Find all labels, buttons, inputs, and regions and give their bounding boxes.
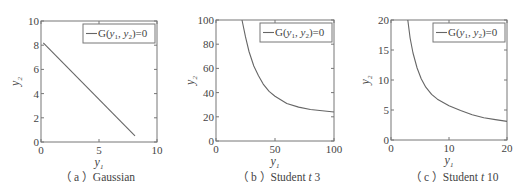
y-tick-label: 60 <box>203 62 215 74</box>
legend: G(y1, y2)=0 <box>433 23 505 42</box>
caption-c-suffix: 10 <box>484 171 498 183</box>
caption-c-name: Student <box>443 171 481 183</box>
y-tick-label: 4 <box>34 88 40 100</box>
legend: G(y1, y2)=0 <box>260 23 332 42</box>
y-tick-label: 5 <box>384 104 390 116</box>
caption-c-label: （ c ） <box>410 171 443 183</box>
y-tick-label: 0 <box>209 135 215 147</box>
legend-label: G(y1, y2)=0 <box>275 26 325 40</box>
y-tick-label: 10 <box>28 15 40 27</box>
y-tick-label: 15 <box>378 44 390 56</box>
legend: G(y1, y2)=0 <box>83 24 155 43</box>
y-tick-label: 20 <box>378 14 390 26</box>
chart-a: 05100246810y1y2G(y1, y2)=0 <box>0 0 175 190</box>
y-axis-label: y2 <box>8 77 24 87</box>
y-axis-label: y2 <box>183 76 199 86</box>
y-tick-label: 10 <box>378 74 390 86</box>
series-line <box>43 43 135 136</box>
chart-b: 050100020406080100y1y2G(y1, y2)=0 <box>175 0 350 190</box>
caption-b-label: （ b ） <box>237 171 271 183</box>
chart-c: 0102005101520y1y2G(y1, y2)=0 <box>350 0 529 190</box>
panel-a: 05100246810y1y2G(y1, y2)=0 （ a ）Gaussian <box>0 0 175 190</box>
y-tick-label: 0 <box>34 136 40 148</box>
panel-c: 0102005101520y1y2G(y1, y2)=0 （ c ）Studen… <box>350 0 529 190</box>
legend-label: G(y1, y2)=0 <box>98 27 148 41</box>
x-tick-label: 0 <box>388 142 394 154</box>
caption-a-label: （ a ） <box>60 171 93 183</box>
y-tick-label: 2 <box>34 112 40 124</box>
legend-label: G(y1, y2)=0 <box>448 26 498 40</box>
y-tick-label: 8 <box>34 39 40 51</box>
y-tick-label: 20 <box>203 111 215 123</box>
x-tick-label: 10 <box>152 144 164 156</box>
y-tick-label: 100 <box>198 14 215 26</box>
y-tick-label: 6 <box>34 63 40 75</box>
caption-b-name: Student <box>271 171 309 183</box>
y-tick-label: 40 <box>203 87 215 99</box>
y-axis-label: y2 <box>358 75 374 85</box>
x-tick-label: 0 <box>213 143 219 155</box>
panel-b: 050100020406080100y1y2G(y1, y2)=0 （ b ）S… <box>175 0 350 190</box>
x-tick-label: 0 <box>38 144 44 156</box>
caption-c: （ c ）Student t 10 <box>410 168 498 184</box>
caption-b-suffix: 3 <box>312 171 321 183</box>
x-tick-label: 20 <box>502 142 514 154</box>
caption-a-name: Gaussian <box>93 171 135 183</box>
caption-a: （ a ）Gaussian <box>60 168 135 184</box>
y-tick-label: 0 <box>384 134 390 146</box>
caption-b: （ b ）Student t 3 <box>237 168 320 184</box>
y-tick-label: 80 <box>203 38 215 50</box>
x-tick-label: 100 <box>326 143 343 155</box>
x-axis-label: y1 <box>444 153 454 169</box>
